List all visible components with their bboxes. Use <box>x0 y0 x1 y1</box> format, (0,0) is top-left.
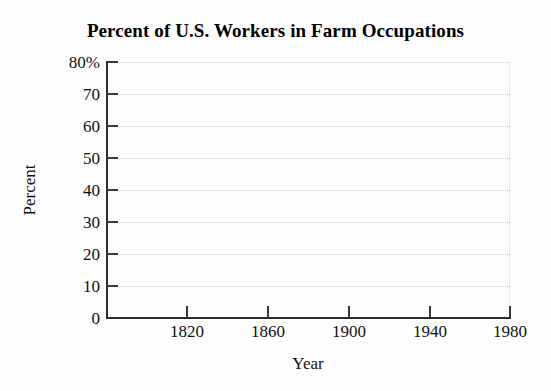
y-axis-tick <box>107 93 118 95</box>
x-axis-tick <box>509 306 511 318</box>
y-axis-title: Percent <box>20 130 40 250</box>
x-axis-tick-label: 1980 <box>470 323 550 340</box>
gridline <box>106 222 510 223</box>
gridline <box>106 190 510 191</box>
y-axis-tick <box>107 157 118 159</box>
x-axis-tick-label: 1940 <box>390 323 470 340</box>
chart-title: Percent of U.S. Workers in Farm Occupati… <box>0 20 551 42</box>
gridline <box>106 158 510 159</box>
plot-area <box>106 62 510 318</box>
gridline <box>106 286 510 287</box>
x-axis-tick-label: 1900 <box>309 323 389 340</box>
x-axis-tick <box>429 306 431 318</box>
x-axis-tick-label: 1860 <box>228 323 308 340</box>
x-axis-tick-label: 1820 <box>147 323 227 340</box>
gridline <box>106 62 510 63</box>
plot-right-border <box>509 62 510 318</box>
x-axis-title: Year <box>106 354 510 374</box>
y-axis-tick-label: 10 <box>10 278 100 295</box>
gridline <box>106 126 510 127</box>
chart-figure: Percent of U.S. Workers in Farm Occupati… <box>0 0 551 391</box>
x-axis-tick <box>267 306 269 318</box>
y-axis-tick <box>107 125 118 127</box>
y-axis-tick <box>107 61 118 63</box>
y-axis-tick <box>107 221 118 223</box>
y-axis-tick <box>107 285 118 287</box>
gridline <box>106 94 510 95</box>
x-axis-tick <box>186 306 188 318</box>
gridline <box>106 254 510 255</box>
y-axis-tick <box>107 253 118 255</box>
x-axis-tick <box>348 306 350 318</box>
y-axis-tick-label: 80% <box>10 54 100 71</box>
y-axis-tick-label: 70 <box>10 86 100 103</box>
y-axis-tick <box>107 189 118 191</box>
y-axis-tick-label: 0 <box>10 310 100 327</box>
x-axis-spine <box>106 317 511 319</box>
